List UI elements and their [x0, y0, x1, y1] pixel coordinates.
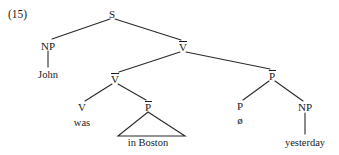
terminal-was-text: was — [74, 117, 90, 128]
node-adjunct-np: NP — [298, 102, 312, 113]
edge-vbar-upper-to-vbar-lower — [119, 52, 180, 72]
edge-vbar-upper-to-pbar-right — [186, 52, 270, 69]
terminal-null-preposition-text: ø — [237, 114, 243, 126]
terminal-was: was — [74, 117, 90, 128]
node-adjunct-np-label: NP — [298, 101, 312, 113]
node-vbar-upper: V — [179, 41, 187, 53]
node-subject-np: NP — [41, 41, 55, 52]
node-vbar-upper-label: V — [179, 41, 187, 53]
node-vbar-lower: V — [111, 73, 119, 85]
edge-vbar-lower-to-v — [85, 84, 112, 101]
terminal-yesterday-text: yesterday — [285, 137, 325, 148]
node-s: S — [109, 9, 115, 20]
syntax-tree-figure: (15) S NP V V P V P P NP John was ø in B… — [0, 0, 339, 155]
edge-s-to-vbar-upper — [115, 19, 181, 40]
node-pbar-lower: P — [145, 101, 151, 113]
node-s-label: S — [109, 8, 115, 20]
node-vbar-lower-label: V — [111, 73, 119, 85]
node-subject-np-label: NP — [41, 40, 55, 52]
terminal-in-boston: in Boston — [128, 137, 169, 148]
node-prep-p: P — [237, 101, 243, 112]
in-boston-triangle — [118, 112, 185, 136]
edge-vbar-lower-to-pbar-lower — [118, 84, 146, 100]
node-pbar-lower-label: P — [145, 101, 151, 113]
edge-pbar-right-to-np — [275, 81, 303, 101]
terminal-john-text: John — [38, 69, 58, 80]
terminal-in-boston-text: in Boston — [128, 137, 169, 148]
node-verb-v: V — [78, 102, 86, 113]
node-pbar-right-label: P — [269, 70, 275, 82]
node-verb-v-label: V — [78, 101, 86, 113]
example-number-label: (15) — [8, 8, 27, 20]
node-prep-p-label: P — [237, 100, 243, 112]
edge-s-to-np — [52, 19, 110, 39]
terminal-john: John — [38, 69, 58, 80]
edge-pbar-right-to-p — [243, 81, 269, 100]
node-pbar-right: P — [269, 70, 275, 82]
terminal-null-preposition: ø — [237, 115, 243, 126]
terminal-yesterday: yesterday — [285, 137, 325, 148]
